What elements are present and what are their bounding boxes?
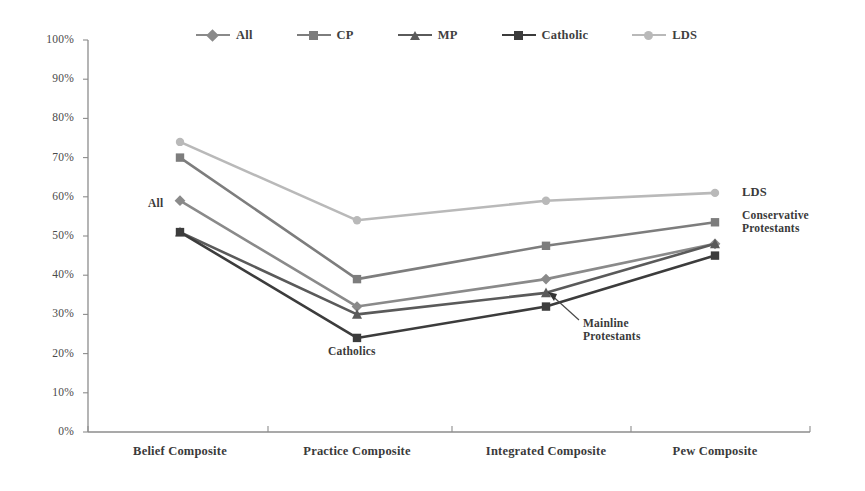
legend-label: LDS [672,28,697,43]
series-line-all [180,201,715,307]
y-axis-tick-label: 60% [28,190,74,202]
marker-circle-icon [353,216,361,224]
marker-square-icon [176,153,184,161]
legend-item-mp[interactable]: MP [398,25,458,45]
legend-item-all[interactable]: All [196,25,253,45]
marker-square-icon [353,334,361,342]
annotation-conservative-protestants: Conservative Protestants [742,209,809,235]
series-line-lds [180,142,715,220]
square-icon [297,28,331,42]
annotation-mainline-protestants: Mainline Protestants [583,317,641,343]
series-line-mp [180,232,715,314]
x-axis-tick-label: Practice Composite [267,444,447,459]
line-chart: AllCPMPCatholicLDS 100%90%80%70%60%50%40… [0,0,865,491]
y-axis-tick-label: 100% [28,33,74,45]
square-icon [502,28,536,42]
marker-square-icon [542,242,550,250]
legend-label: CP [337,28,354,43]
y-axis-tick-label: 20% [28,347,74,359]
legend-label: Catholic [542,28,589,43]
annotation-mainline-line2: Protestants [583,330,641,343]
y-axis-tick-label: 80% [28,111,74,123]
annotation-conservative-line1: Conservative [742,209,809,222]
series-all [175,195,721,312]
triangle-icon [398,28,432,42]
annotation-catholics: Catholics [328,345,376,358]
x-axis-tick-label: Belief Composite [90,444,270,459]
marker-circle-icon [176,138,184,146]
marker-square-icon [711,218,719,226]
marker-square-icon [542,302,550,310]
marker-diamond-icon [541,274,552,285]
x-axis-tick-label: Integrated Composite [456,444,636,459]
series-cp [176,153,719,283]
annotation-conservative-line2: Protestants [742,222,809,235]
x-axis-tick-label: Pew Composite [625,444,805,459]
annotation-all: All [148,197,163,210]
y-axis-tick-label: 70% [28,151,74,163]
legend-label: All [236,28,253,43]
marker-square-icon [353,275,361,283]
marker-circle-icon [711,189,719,197]
legend-label: MP [438,28,458,43]
y-axis-tick-label: 40% [28,268,74,280]
diamond-icon [196,28,230,42]
marker-diamond-icon [175,195,186,206]
series-mp [175,227,720,319]
marker-square-icon [176,228,184,236]
y-axis-tick-label: 10% [28,386,74,398]
legend-item-cp[interactable]: CP [297,25,354,45]
chart-plot-area [0,0,865,491]
y-axis-tick-label: 90% [28,72,74,84]
marker-circle-icon [542,197,550,205]
legend-item-lds[interactable]: LDS [632,25,697,45]
marker-square-icon [711,251,719,259]
annotation-mainline-line1: Mainline [583,317,641,330]
annotation-lds: LDS [742,186,767,199]
circle-icon [632,28,666,42]
chart-legend: AllCPMPCatholicLDS [196,24,716,46]
y-axis-tick-label: 0% [28,425,74,437]
y-axis-tick-label: 50% [28,229,74,241]
legend-item-catholic[interactable]: Catholic [502,25,589,45]
y-axis-tick-label: 30% [28,307,74,319]
